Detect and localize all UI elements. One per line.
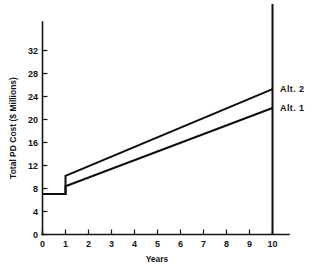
y-tick-label: 4 <box>33 207 38 217</box>
y-tick-label: 24 <box>28 92 38 102</box>
x-tick-label: 3 <box>109 239 114 249</box>
y-tick-label: 12 <box>28 161 38 171</box>
x-axis-title: Years <box>146 254 169 264</box>
x-tick-label: 5 <box>155 239 160 249</box>
x-tick-labels: 0 1 2 3 4 5 6 7 8 9 10 <box>40 239 278 249</box>
y-tick-label: 8 <box>33 184 38 194</box>
series-label-alt-1: Alt. 1 <box>280 103 304 113</box>
line-chart-canvas: 0 4 8 12 16 20 24 28 32 0 1 2 3 4 5 6 7 … <box>0 0 316 269</box>
x-tick-label: 8 <box>224 239 229 249</box>
y-tick-label: 20 <box>28 115 38 125</box>
series-label-alt-2: Alt. 2 <box>280 84 304 94</box>
y-tick-label: 28 <box>28 69 38 79</box>
y-axis-title: Total PD Cost ($ Millions) <box>8 77 18 179</box>
x-tick-label: 10 <box>267 239 277 249</box>
y-tick-labels: 0 4 8 12 16 20 24 28 32 <box>28 46 38 240</box>
x-tick-label: 2 <box>86 239 91 249</box>
y-tick-label: 16 <box>28 138 38 148</box>
series-line-alt-2 <box>43 89 273 194</box>
x-tick-label: 4 <box>132 239 137 249</box>
x-tick-label: 9 <box>247 239 252 249</box>
y-tick-label: 0 <box>33 230 38 240</box>
chart-figure: 0 4 8 12 16 20 24 28 32 0 1 2 3 4 5 6 7 … <box>0 0 316 269</box>
x-tick-label: 7 <box>201 239 206 249</box>
series-line-alt-1 <box>43 108 273 194</box>
x-tick-label: 0 <box>40 239 45 249</box>
x-tick-label: 1 <box>63 239 68 249</box>
y-tick-label: 32 <box>28 46 38 56</box>
x-tick-label: 6 <box>178 239 183 249</box>
